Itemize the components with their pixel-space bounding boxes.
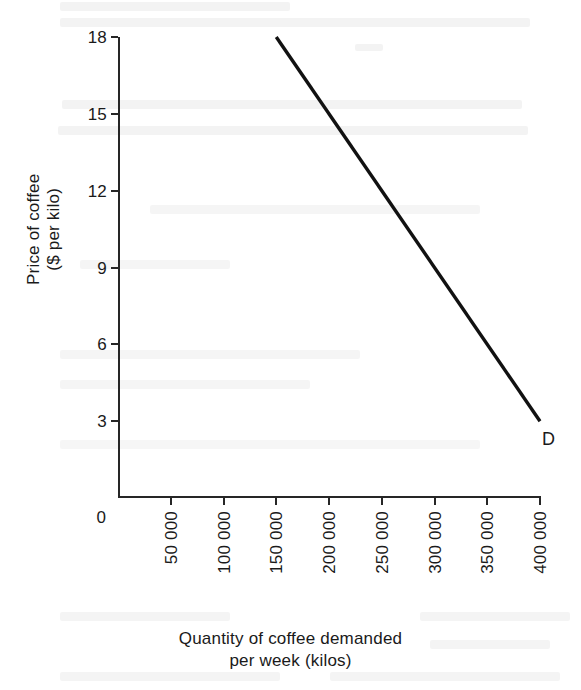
- y-axis-tick-label: 6: [97, 336, 107, 353]
- x-axis-title-line-1: Quantity of coffee demanded: [0, 628, 581, 650]
- demand-curve-plot: [118, 37, 540, 498]
- x-axis-tick-label-text: 350 000: [479, 511, 496, 574]
- y-axis-title: Price of coffee ($ per kilo): [24, 174, 64, 285]
- x-axis-tick-label-text: 250 000: [373, 511, 390, 574]
- demand-curve-figure: Price of coffee ($ per kilo) 0 369121518…: [0, 0, 581, 690]
- y-axis-tick-label: 3: [97, 413, 107, 430]
- y-axis-tick-label: 9: [97, 259, 107, 276]
- x-axis-tick-label-text: 400 000: [532, 511, 549, 574]
- x-axis-tick-label: 400 000: [540, 448, 557, 511]
- y-axis-tick: [111, 190, 118, 192]
- y-axis-tick-label: 15: [88, 105, 107, 122]
- y-axis-tick: [111, 267, 118, 269]
- y-axis-origin-label: 0: [97, 509, 106, 526]
- x-axis-title-line-2: per week (kilos): [0, 650, 581, 672]
- plot-area: 0 369121518 50 000100 000150 000200 0002…: [118, 37, 540, 497]
- y-axis-title-line-1: Price of coffee: [24, 174, 44, 285]
- demand-curve-label: D: [542, 430, 555, 448]
- y-axis-title-line-2: ($ per kilo): [44, 174, 64, 285]
- y-axis-tick: [111, 36, 118, 38]
- x-axis-tick-label-text: 50 000: [162, 511, 179, 564]
- x-axis-title: Quantity of coffee demanded per week (ki…: [0, 628, 581, 672]
- y-axis-tick: [111, 113, 118, 115]
- y-axis-tick-label: 12: [88, 182, 107, 199]
- x-axis-tick-label-text: 200 000: [321, 511, 338, 574]
- y-axis-tick: [111, 343, 118, 345]
- y-axis-tick: [111, 420, 118, 422]
- x-axis-tick-label-text: 150 000: [268, 511, 285, 574]
- x-axis-tick-label-text: 300 000: [426, 511, 443, 574]
- y-axis-tick-label: 18: [88, 29, 107, 46]
- demand-curve-line: [276, 37, 540, 421]
- x-axis-tick-label-text: 100 000: [215, 511, 232, 574]
